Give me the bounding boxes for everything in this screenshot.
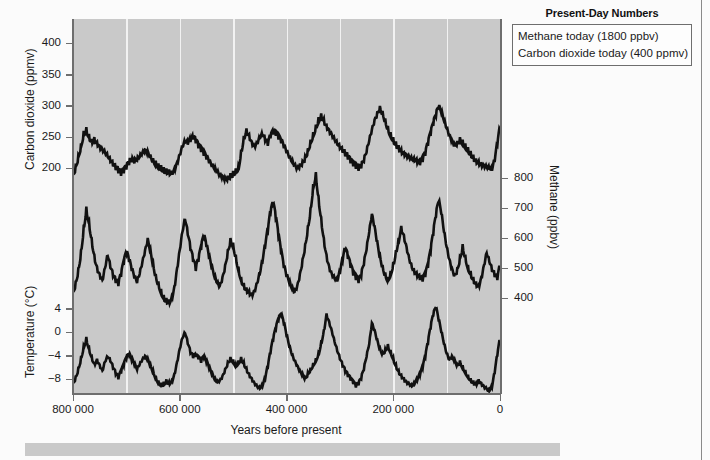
x-tick-mark [286, 394, 288, 401]
trace-temperature [73, 19, 500, 393]
plot-area [73, 19, 500, 393]
y-tick-mark [66, 105, 73, 107]
x-tick-mark [73, 394, 75, 401]
x-tick-label: 600 000 [120, 404, 240, 416]
x-tick-mark [500, 394, 502, 401]
y-tick-label: 500 [514, 262, 533, 274]
legend-row-methane: Methane today (1800 ppbv) [518, 28, 686, 44]
y-tick-mark [66, 379, 73, 381]
y-tick-mark [66, 332, 73, 334]
y-tick-label: 700 [514, 202, 533, 214]
y-tick-mark [501, 268, 508, 270]
y-tick-label: 800 [514, 172, 533, 184]
legend: Present-Day Numbers Methane today (1800 … [512, 7, 692, 66]
y-tick-mark [66, 168, 73, 170]
x-tick-label: 400 000 [227, 404, 347, 416]
x-tick-label: 800 000 [13, 404, 133, 416]
y-tick-label: 400 [514, 292, 533, 304]
y-tick-mark [66, 43, 73, 45]
y-tick-mark [501, 208, 508, 210]
x-tick-mark [179, 394, 181, 401]
y-tick-label: 400 [0, 37, 61, 49]
caption-strip [25, 443, 560, 456]
legend-row-carbon-dioxide: Carbon dioxide today (400 ppmv) [518, 45, 686, 61]
y-tick-mark [66, 137, 73, 139]
y-axis-title-temperature: Temperature (°C) [24, 286, 36, 378]
y-axis-title-methane: Methane (ppbv) [548, 165, 560, 249]
y-tick-label: 600 [514, 232, 533, 244]
x-tick-label: 200 000 [333, 404, 453, 416]
legend-box: Methane today (1800 ppbv) Carbon dioxide… [512, 24, 692, 66]
y-axis-line-right [500, 19, 502, 394]
y-tick-mark [501, 298, 508, 300]
y-tick-mark [66, 74, 73, 76]
legend-title: Present-Day Numbers [512, 7, 692, 20]
y-tick-mark [501, 238, 508, 240]
x-tick-mark [393, 394, 395, 401]
y-tick-mark [66, 355, 73, 357]
figure-page: 40035030025020080070060050040040−4−8800 … [0, 0, 710, 460]
x-axis-title: Years before present [186, 424, 386, 436]
x-tick-label: 0 [440, 404, 560, 416]
y-axis-title-co2: Carbon dioxide (ppmv) [24, 49, 36, 170]
ice-core-figure: 40035030025020080070060050040040−4−8800 … [0, 0, 710, 460]
y-tick-mark [66, 308, 73, 310]
y-tick-mark [501, 178, 508, 180]
